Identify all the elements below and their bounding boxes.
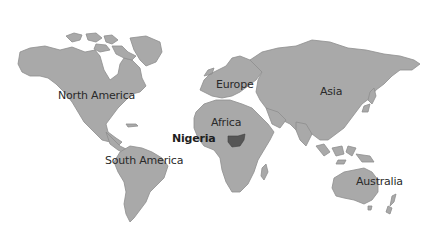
madagascar-shape [261,164,268,180]
new-zealand-shape [386,194,396,214]
label-north-america: North America [58,90,135,101]
southeast-asia-islands-shape [316,144,374,164]
label-africa: Africa [211,117,241,128]
label-south-america: South America [105,155,183,166]
label-australia: Australia [356,176,403,187]
label-asia: Asia [320,86,342,97]
tasmania-shape [368,206,372,210]
greenland-shape [130,36,162,66]
label-nigeria: Nigeria [172,133,216,144]
label-europe: Europe [216,79,253,90]
